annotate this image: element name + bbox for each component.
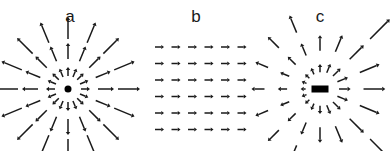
- panel-c: [251, 16, 389, 151]
- vector-b-4-0-head: [161, 111, 164, 115]
- vector-c-9-0-shaft: [305, 83, 307, 84]
- vector-c-10-2-shaft: [270, 39, 279, 48]
- vector-b-5-2-head: [194, 128, 197, 132]
- panel-a: [0, 17, 140, 151]
- vector-c-4-1-head: [318, 140, 322, 143]
- vector-a-9-0-shaft: [51, 82, 56, 84]
- vector-a-2-1-shaft: [89, 110, 98, 119]
- panel-label-b: b: [191, 7, 200, 26]
- vector-a-9-1-shaft: [28, 73, 40, 78]
- vector-a-3-1-shaft: [79, 117, 84, 129]
- vector-c-3-0-shaft: [327, 105, 329, 111]
- vector-a-4-1-head: [66, 132, 70, 135]
- vector-a-6-2-shaft: [19, 124, 32, 137]
- vector-c-7-2-shaft: [258, 111, 268, 115]
- vector-c-5-2-shaft: [291, 145, 297, 151]
- vector-c-6-2-shaft: [270, 130, 279, 139]
- vector-a-5-2-shaft: [42, 135, 49, 151]
- vector-a-13-0-shaft: [73, 72, 75, 77]
- vector-a-14-0-shaft: [77, 76, 81, 80]
- vector-a-0-2-head: [137, 87, 140, 91]
- vector-c-10-0-shaft: [307, 76, 309, 78]
- vector-b-0-5-head: [244, 45, 247, 49]
- vector-c-0-0-head: [348, 87, 351, 91]
- vector-b-5-1-head: [178, 128, 181, 132]
- vector-b-1-4-head: [227, 62, 230, 66]
- vector-b-3-1-head: [178, 95, 181, 99]
- vector-a-15-1-shaft: [96, 73, 108, 78]
- vector-c-8-0-head: [301, 87, 304, 91]
- vector-a-1-1-shaft: [96, 100, 108, 105]
- vector-a-10-2-shaft: [19, 40, 32, 53]
- vector-a-7-1-shaft: [28, 100, 40, 105]
- vector-c-14-0-shaft: [333, 71, 338, 76]
- vector-c-1-0-shaft: [337, 96, 345, 99]
- panel-b: [155, 45, 247, 131]
- vector-b-3-3-head: [211, 95, 214, 99]
- vector-a-5-1-shaft: [52, 117, 57, 129]
- vector-c-2-1-shaft: [350, 119, 362, 131]
- vector-b-5-3-head: [211, 128, 214, 132]
- panel-label-c: c: [316, 7, 325, 26]
- vector-b-1-3-head: [211, 62, 214, 66]
- vector-c-6-0-shaft: [307, 100, 309, 102]
- vector-b-5-4-head: [227, 128, 230, 132]
- vector-b-2-5-head: [244, 78, 247, 82]
- vector-b-3-5-head: [244, 95, 247, 99]
- vector-a-3-2-shaft: [87, 135, 94, 151]
- vector-a-11-0-shaft: [61, 72, 63, 77]
- vector-b-2-0-head: [161, 78, 164, 82]
- vector-a-2-0-shaft: [77, 98, 81, 102]
- vector-a-4-0-head: [66, 108, 70, 111]
- vector-a-2-2-shaft: [103, 124, 116, 137]
- vector-a-15-2-shaft: [114, 63, 132, 70]
- vector-b-0-1-head: [178, 45, 181, 49]
- vector-c-9-2-shaft: [258, 63, 268, 67]
- vector-a-6-1-shaft: [38, 110, 47, 119]
- vector-c-15-0-shaft: [337, 79, 345, 82]
- vector-b-5-0-head: [161, 128, 164, 132]
- vector-a-9-2-shaft: [4, 63, 22, 70]
- vector-a-7-0-shaft: [51, 94, 56, 96]
- vector-b-1-1-head: [178, 62, 181, 66]
- vector-b-3-2-head: [194, 95, 197, 99]
- vector-b-1-5-head: [244, 62, 247, 66]
- vector-c-11-1-shaft: [302, 46, 306, 55]
- vector-c-14-1-shaft: [350, 47, 362, 59]
- source-core-c: [312, 86, 329, 93]
- vector-c-8-2-head: [251, 87, 254, 91]
- vector-c-3-1-shaft: [335, 126, 341, 140]
- vector-b-5-5-head: [244, 128, 247, 132]
- vector-c-14-2-shaft: [370, 21, 388, 39]
- vector-c-5-1-shaft: [302, 122, 306, 131]
- vector-c-11-0-shaft: [312, 71, 314, 75]
- vector-a-14-2-shaft: [103, 40, 116, 53]
- vector-b-4-2-head: [194, 111, 197, 115]
- vector-a-12-0-head: [66, 67, 70, 70]
- vector-a-7-2-shaft: [4, 108, 22, 115]
- vector-a-14-1-shaft: [89, 59, 98, 68]
- vector-c-6-1-shaft: [290, 113, 296, 119]
- vector-c-15-1-shaft: [360, 66, 377, 73]
- vector-field-figure: a b c: [0, 0, 390, 151]
- vector-a-5-0-shaft: [61, 101, 63, 106]
- vector-b-4-3-head: [211, 111, 214, 115]
- vector-a-13-2-shaft: [87, 25, 94, 43]
- vector-c-9-1-shaft: [283, 74, 289, 77]
- vector-b-1-0-head: [161, 62, 164, 66]
- vector-c-8-1-head: [278, 87, 281, 91]
- vector-a-10-1-shaft: [38, 59, 47, 68]
- vector-a-8-1-head: [22, 87, 25, 91]
- vector-c-7-1-shaft: [283, 102, 289, 105]
- vector-b-4-4-head: [227, 111, 230, 115]
- vector-a-12-1-head: [66, 43, 70, 46]
- vector-b-0-0-head: [161, 45, 164, 49]
- vector-b-0-3-head: [211, 45, 214, 49]
- vector-c-7-0-shaft: [305, 95, 307, 96]
- vector-b-2-4-head: [227, 78, 230, 82]
- vector-c-2-0-shaft: [333, 102, 338, 107]
- vector-a-15-0-shaft: [80, 82, 85, 84]
- vector-a-8-0-head: [46, 87, 49, 91]
- vector-a-3-0-shaft: [73, 101, 75, 106]
- vector-b-2-1-head: [178, 78, 181, 82]
